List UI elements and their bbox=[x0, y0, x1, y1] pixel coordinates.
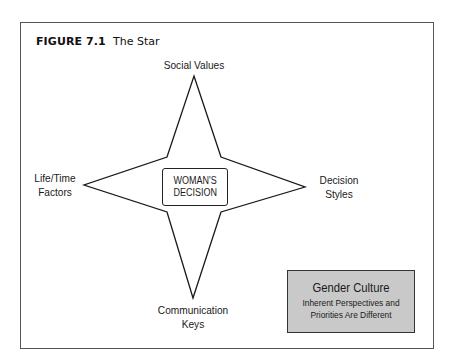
center-decision-box: WOMAN'S DECISION bbox=[162, 168, 228, 206]
label-life-time-factors: Life/Time Factors bbox=[29, 171, 80, 199]
label-social-values: Social Values bbox=[150, 58, 238, 72]
center-decision-label: WOMAN'S DECISION bbox=[173, 175, 217, 199]
gender-culture-title: Gender Culture bbox=[294, 281, 407, 295]
gender-culture-subtitle: Inherent Perspectives and Priorities Are… bbox=[296, 297, 407, 321]
gender-culture-box: Gender Culture Inherent Perspectives and… bbox=[287, 270, 415, 333]
label-decision-styles: Decision Styles bbox=[312, 173, 367, 201]
label-communication-keys: Communication Keys bbox=[149, 303, 237, 331]
